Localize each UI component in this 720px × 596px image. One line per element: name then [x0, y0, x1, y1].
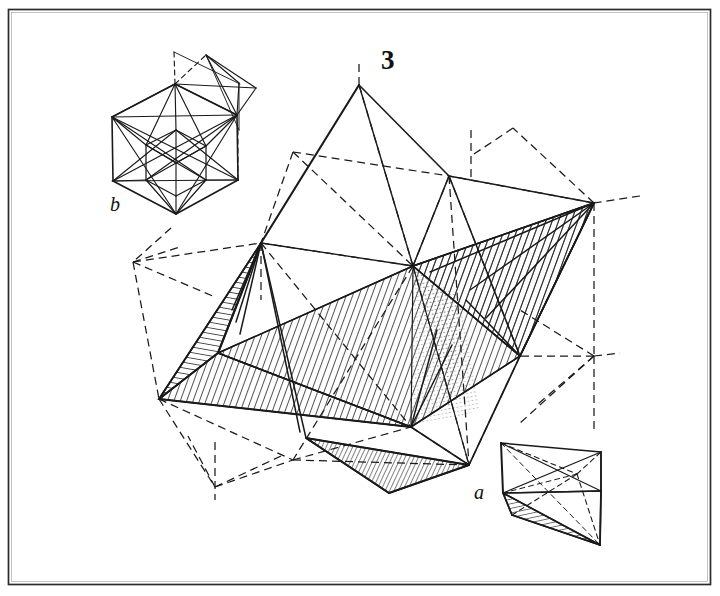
- engraving-plate: 3 b a: [0, 0, 720, 596]
- inset-a-label: a: [474, 482, 484, 502]
- bottom-spur-hatched-face: [306, 438, 469, 493]
- inset-b-rhombic-dodecahedron: [112, 52, 256, 214]
- figure-number-label: 3: [381, 47, 395, 74]
- figure-illustration: [0, 0, 720, 596]
- inset-b-label: b: [110, 194, 120, 214]
- inset-a-tetrahedron-in-cube: [501, 443, 601, 545]
